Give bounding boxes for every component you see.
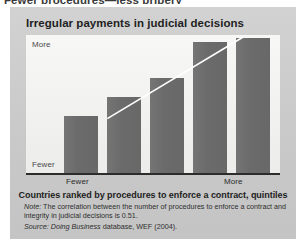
- figure-footnotes: Note: The correlation between the number…: [24, 203, 288, 232]
- x-axis-tick-fewer: Fewer: [66, 177, 89, 186]
- figure-screenshot: Fewer procedures—less bribery Irregular …: [0, 0, 306, 246]
- bar-group: [64, 37, 270, 173]
- bar: [236, 38, 270, 173]
- x-axis-tick-more: More: [224, 177, 243, 186]
- source-line: Source: Doing Business database, WEF (20…: [24, 223, 288, 232]
- source-database-title: Doing Business: [49, 222, 101, 231]
- bar: [64, 116, 98, 173]
- y-axis-label-more: More: [32, 40, 51, 49]
- bar: [150, 78, 184, 173]
- figure-panel: Irregular payments in judicial decisions…: [10, 7, 296, 239]
- note-text: The correlation between the number of pr…: [24, 202, 286, 220]
- x-axis-title: Countries ranked by procedures to enforc…: [10, 190, 296, 200]
- source-lead: Source:: [24, 222, 49, 231]
- y-axis-label-fewer: Fewer: [32, 160, 55, 169]
- chart-title: Irregular payments in judicial decisions: [26, 17, 244, 29]
- plot-area: More Fewer: [26, 35, 280, 173]
- bar: [107, 97, 141, 173]
- x-axis-rule: [26, 173, 280, 175]
- source-rest: database, WEF (2004).: [101, 222, 177, 231]
- page-heading: Fewer procedures—less bribery: [4, 0, 302, 4]
- bar: [193, 42, 227, 173]
- note-line: Note: The correlation between the number…: [24, 203, 288, 220]
